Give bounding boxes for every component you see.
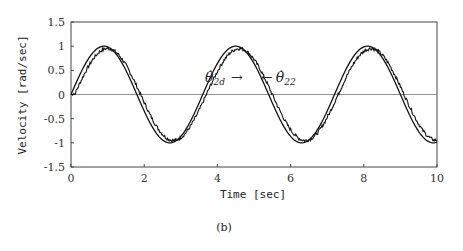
x-tick-label: 2 xyxy=(141,172,148,185)
y-tick-label: 0 xyxy=(58,89,65,102)
x-axis-label: Time [sec] xyxy=(220,188,286,201)
figure-caption: (b) xyxy=(216,221,232,234)
y-tick-label: 0.5 xyxy=(48,64,66,77)
annotation-theta-22: ←θ̇22 xyxy=(261,69,296,87)
x-tick-label: 6 xyxy=(287,172,294,185)
y-tick-label: -0.5 xyxy=(44,113,65,126)
y-axis-label: Velocity [rad/sec] xyxy=(16,35,29,154)
x-tick-label: 0 xyxy=(68,172,75,185)
annotation-theta-2d: θ̇2d→ xyxy=(205,69,243,87)
x-tick-label: 8 xyxy=(360,172,367,185)
y-tick-label: -1 xyxy=(54,137,65,150)
y-tick-label: 1 xyxy=(58,40,65,53)
velocity-chart: 02468101.510.50-0.5-1-1.5 θ̇2d→ ←θ̇22 Ti… xyxy=(0,0,463,251)
y-tick-label: -1.5 xyxy=(44,161,65,174)
plot-area: 02468101.510.50-0.5-1-1.5 xyxy=(44,16,444,185)
x-tick-label: 10 xyxy=(430,172,444,185)
y-tick-label: 1.5 xyxy=(48,16,66,29)
x-tick-label: 4 xyxy=(214,172,221,185)
